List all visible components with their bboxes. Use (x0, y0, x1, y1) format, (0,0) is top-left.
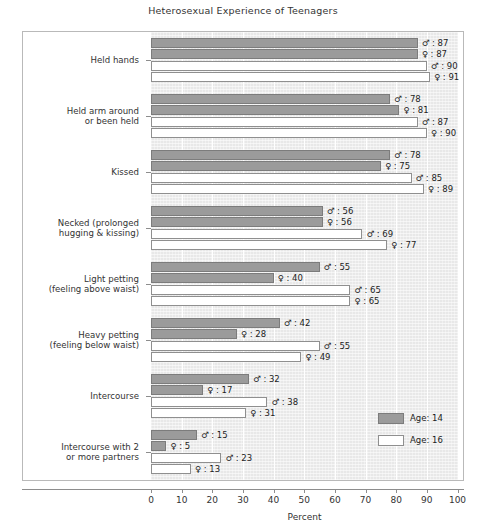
bar (151, 430, 197, 440)
bar (151, 117, 418, 127)
bar (151, 61, 427, 71)
bar-value-label: ♂ : 38 (268, 397, 298, 407)
bar-value-label: ♀ : 81 (400, 105, 428, 115)
x-tick-label: 60 (329, 495, 340, 505)
bar-value-label: ♂ : 87 (419, 38, 449, 48)
bar (151, 217, 323, 227)
bar-value-label: ♀ : 77 (388, 240, 416, 250)
bar-value-label: ♀ : 65 (351, 296, 379, 306)
x-tick (458, 489, 459, 493)
category-tick (146, 284, 151, 285)
bar (151, 352, 301, 362)
bar (151, 441, 166, 451)
category-tick (146, 172, 151, 173)
bar (151, 464, 191, 474)
x-tick (182, 489, 183, 493)
category-label: Held hands (20, 55, 145, 66)
bar-value-label: ♂ : 78 (391, 150, 421, 160)
x-tick (366, 489, 367, 493)
legend-swatch (378, 435, 404, 446)
x-tick (335, 489, 336, 493)
bar-value-label: ♀ : 28 (238, 329, 266, 339)
bar-value-label: ♂ : 15 (198, 430, 228, 440)
bar-value-label: ♂ : 85 (413, 173, 443, 183)
bar-value-label: ♂ : 56 (324, 206, 354, 216)
x-tick (274, 489, 275, 493)
category-label-line: Kissed (20, 167, 139, 178)
x-tick (151, 489, 152, 493)
category-tick (146, 452, 151, 453)
x-tick-label: 30 (237, 495, 248, 505)
chart-root: Heterosexual Experience of Teenagers Hel… (0, 0, 486, 529)
bar-value-label: ♀ : 56 (324, 217, 352, 227)
x-tick-label: 80 (390, 495, 401, 505)
chart-title: Heterosexual Experience of Teenagers (0, 5, 486, 16)
bar (151, 184, 424, 194)
bar (151, 38, 418, 48)
category-label: Held arm aroundor been held (20, 106, 145, 127)
bar (151, 150, 390, 160)
bar-value-label: ♀ : 89 (425, 184, 453, 194)
bar (151, 285, 350, 295)
bar (151, 385, 203, 395)
bar-value-label: ♂ : 55 (321, 262, 351, 272)
category-tick (146, 228, 151, 229)
bar (151, 173, 412, 183)
chart-legend: Age: 14Age: 16 (378, 412, 462, 454)
bar-value-label: ♀ : 49 (302, 352, 330, 362)
bar (151, 329, 237, 339)
bar-value-label: ♂ : 65 (351, 285, 381, 295)
bar-value-label: ♀ : 17 (204, 385, 232, 395)
category-label: Intercourse (20, 391, 145, 402)
legend-swatch (378, 413, 404, 424)
bar (151, 105, 399, 115)
bar (151, 161, 381, 171)
x-tick-label: 100 (449, 495, 466, 505)
bar-value-label: ♀ : 75 (382, 161, 410, 171)
x-tick-label: 70 (360, 495, 371, 505)
x-tick-label: 90 (421, 495, 432, 505)
bar-value-label: ♀ : 5 (167, 441, 190, 451)
bar-value-label: ♂ : 55 (321, 341, 351, 351)
bar (151, 453, 221, 463)
category-tick (146, 60, 151, 61)
bar (151, 408, 246, 418)
category-tick (146, 396, 151, 397)
x-tick (396, 489, 397, 493)
bar (151, 296, 350, 306)
bar (151, 94, 390, 104)
x-tick (243, 489, 244, 493)
bar-value-label: ♂ : 87 (419, 117, 449, 127)
x-tick (304, 489, 305, 493)
category-tick (146, 116, 151, 117)
bar-value-label: ♂ : 32 (250, 374, 280, 384)
bar (151, 273, 274, 283)
bar-value-label: ♀ : 87 (419, 49, 447, 59)
bar (151, 72, 430, 82)
bar (151, 128, 427, 138)
category-label-line: or more partners (20, 452, 139, 463)
bar-value-label: ♂ : 69 (363, 229, 393, 239)
bar-value-label: ♀ : 90 (428, 128, 456, 138)
x-tick-label: 20 (207, 495, 218, 505)
bar (151, 397, 267, 407)
category-label-line: Heavy petting (20, 330, 139, 341)
x-tick-label: 0 (148, 495, 154, 505)
bar (151, 49, 418, 59)
bar (151, 318, 280, 328)
bar-value-label: ♀ : 40 (275, 273, 303, 283)
bar-value-label: ♀ : 13 (192, 464, 220, 474)
bar (151, 206, 323, 216)
category-label: Heavy petting(feeling below waist) (20, 330, 145, 351)
legend-label: Age: 14 (410, 412, 443, 425)
bar-value-label: ♀ : 91 (431, 72, 459, 82)
category-label-line: Held arm around (20, 106, 139, 117)
category-label-line: (feeling above waist) (20, 284, 139, 295)
bar-value-label: ♂ : 78 (391, 94, 421, 104)
bar-value-label: ♀ : 31 (247, 408, 275, 418)
x-tick-label: 10 (176, 495, 187, 505)
category-label-line: Intercourse with 2 (20, 442, 139, 453)
category-label: Kissed (20, 167, 145, 178)
bar-value-label: ♂ : 23 (222, 453, 252, 463)
x-tick-label: 40 (268, 495, 279, 505)
